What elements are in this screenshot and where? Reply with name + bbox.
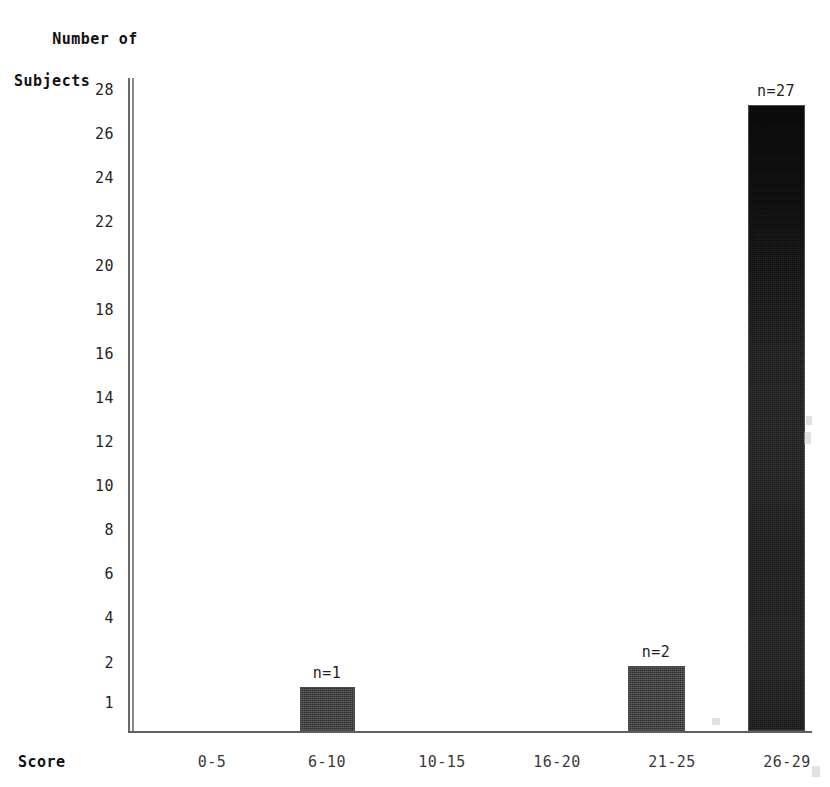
y-axis-tick-label: 26 bbox=[68, 126, 114, 142]
y-axis-tick-label: 6 bbox=[68, 566, 114, 582]
y-axis-line bbox=[128, 78, 130, 733]
bar-value-label: n=2 bbox=[611, 643, 701, 661]
y-axis-tick-label: 1 bbox=[68, 695, 114, 711]
y-axis-tick-label: 8 bbox=[68, 522, 114, 538]
y-axis-line-secondary bbox=[132, 78, 134, 733]
y-axis-tick-label: 10 bbox=[68, 478, 114, 494]
x-axis-tick-label: 10-15 bbox=[397, 753, 487, 771]
y-axis-title: Number of Subjects bbox=[14, 8, 138, 134]
x-axis-tick-label: 0-5 bbox=[167, 753, 257, 771]
x-axis-tick-label: 6-10 bbox=[282, 753, 372, 771]
bar bbox=[628, 666, 685, 731]
y-axis-tick-label: 12 bbox=[68, 434, 114, 450]
x-axis-title: Score bbox=[18, 753, 66, 771]
x-axis-tick-label: 21-25 bbox=[627, 753, 717, 771]
y-axis-tick-label: 22 bbox=[68, 214, 114, 230]
y-axis-title-line1: Number of bbox=[52, 30, 138, 48]
y-axis-tick-label: 14 bbox=[68, 390, 114, 406]
bar-chart: Number of Subjects 282624222018161412108… bbox=[0, 0, 830, 787]
y-axis-tick-label: 4 bbox=[68, 610, 114, 626]
y-axis-tick-label: 24 bbox=[68, 170, 114, 186]
bar bbox=[300, 687, 355, 731]
y-axis-tick-label: 28 bbox=[68, 82, 114, 98]
bar bbox=[748, 105, 805, 731]
x-axis-tick-label: 16-20 bbox=[512, 753, 602, 771]
y-axis-tick-label: 18 bbox=[68, 302, 114, 318]
x-axis-line bbox=[128, 731, 812, 733]
y-axis-tick-label: 2 bbox=[68, 655, 114, 671]
bar-value-label: n=1 bbox=[282, 664, 372, 682]
bar-value-label: n=27 bbox=[731, 82, 821, 100]
scan-artifact bbox=[712, 718, 720, 725]
scan-artifact bbox=[804, 432, 811, 444]
x-axis-tick-label: 26-29 bbox=[742, 753, 830, 771]
y-axis-tick-label: 16 bbox=[68, 346, 114, 362]
y-axis-tick-label: 20 bbox=[68, 258, 114, 274]
scan-artifact bbox=[806, 416, 812, 425]
